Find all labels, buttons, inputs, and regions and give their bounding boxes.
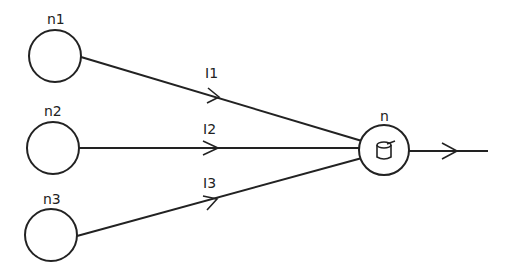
input-node-n2 — [27, 122, 79, 174]
input-node-n3 — [25, 209, 77, 261]
edge-n3-n — [77, 158, 362, 236]
edge-n1-n — [81, 57, 362, 141]
node-label-n3: n3 — [43, 191, 61, 207]
node-label-n: n — [380, 108, 389, 124]
neuron-diagram: n1 n2 n3 n I1 I2 I3 — [0, 0, 512, 274]
input-node-n1 — [29, 30, 81, 82]
node-label-n1: n1 — [47, 11, 65, 27]
edge-label-i1: I1 — [205, 65, 218, 81]
edge-label-i2: I2 — [203, 121, 216, 137]
node-label-n2: n2 — [44, 103, 62, 119]
arrowhead-icon — [203, 196, 217, 210]
output-node-n — [359, 125, 409, 175]
edge-label-i3: I3 — [203, 175, 216, 191]
